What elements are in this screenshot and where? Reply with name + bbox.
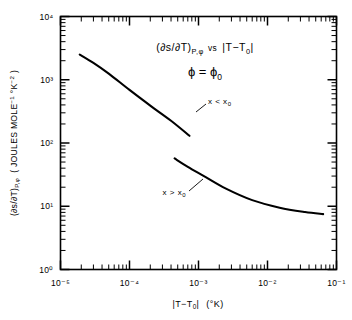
log-log-plot: 10⁻⁵10⁻⁴10⁻³10⁻²10⁻¹ 10⁰10¹10²10³10⁴ |T−… [0, 0, 352, 320]
y-tick-label: 10² [40, 138, 53, 148]
y-axis-title: (∂s/∂T)P,φ( JOULES MOLE−1 °K−2 ) [8, 70, 20, 216]
x-tick-label: 10⁻³ [189, 278, 208, 288]
annotation-condition: ϕ = ϕ0 [188, 64, 222, 82]
x-axis-title: |T−T0|(°K) [172, 299, 223, 310]
y-tick-label: 10⁴ [39, 12, 53, 22]
y-tick-label: 10⁰ [39, 265, 53, 275]
x-tick-label: 10⁻² [258, 278, 277, 288]
x-tick-label: 10⁻⁴ [120, 278, 139, 288]
x-tick-label: 10⁻⁵ [51, 278, 70, 288]
x-tick-label: 10⁻¹ [327, 278, 346, 288]
y-tick-label: 10¹ [40, 201, 53, 211]
figure-container: 10⁻⁵10⁻⁴10⁻³10⁻²10⁻¹ 10⁰10¹10²10³10⁴ |T−… [0, 0, 352, 320]
y-tick-label: 10³ [40, 75, 53, 85]
